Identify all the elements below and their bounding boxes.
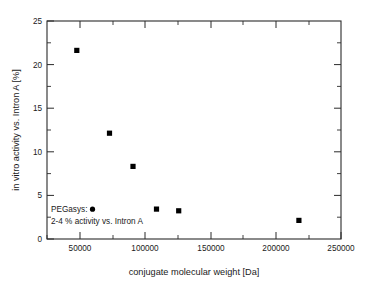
y-tick-label-10: 10 bbox=[33, 148, 43, 157]
x-tick-label-5: 250000 bbox=[327, 244, 355, 253]
y-tick-label-0: 0 bbox=[37, 235, 42, 244]
data-series bbox=[74, 48, 301, 223]
y-tick-label-20: 20 bbox=[33, 61, 43, 70]
x-axis-major-ticks bbox=[80, 232, 341, 239]
scatter-chart-figure: 50000 100000 150000 200000 250000 0 5 10… bbox=[0, 0, 376, 288]
y-axis-right-ticks bbox=[334, 43, 341, 217]
data-point bbox=[130, 164, 135, 169]
data-point bbox=[296, 218, 301, 223]
y-tick-label-5: 5 bbox=[37, 191, 42, 200]
y-axis-tick-labels: 0 5 10 15 20 25 bbox=[33, 17, 43, 244]
data-point bbox=[74, 48, 79, 53]
x-tick-label-1: 50000 bbox=[69, 244, 92, 253]
chart-canvas: 50000 100000 150000 200000 250000 0 5 10… bbox=[0, 0, 376, 288]
x-axis-title: conjugate molecular weight [Da] bbox=[129, 267, 260, 277]
data-point bbox=[154, 207, 159, 212]
data-point bbox=[176, 208, 181, 213]
x-axis-top-ticks bbox=[80, 21, 309, 28]
y-tick-label-25: 25 bbox=[33, 17, 43, 26]
y-axis-minor-ticks bbox=[47, 43, 51, 217]
y-axis-title: in vitro activity vs. Intron A [%] bbox=[11, 69, 21, 191]
x-tick-label-3: 150000 bbox=[197, 244, 225, 253]
x-tick-label-2: 100000 bbox=[131, 244, 159, 253]
x-axis-minor-ticks bbox=[47, 235, 309, 239]
annotation-line-1: PEGasys: bbox=[51, 205, 87, 214]
y-tick-label-15: 15 bbox=[33, 104, 43, 113]
data-point bbox=[107, 131, 112, 136]
plot-frame bbox=[47, 21, 341, 239]
annotation-line-2: 2-4 % activity vs. Intron A bbox=[51, 217, 143, 226]
x-axis-tick-labels: 50000 100000 150000 200000 250000 bbox=[69, 244, 355, 253]
x-tick-label-4: 200000 bbox=[262, 244, 290, 253]
pegasys-circle-marker bbox=[90, 207, 95, 212]
annotation-block: PEGasys: 2-4 % activity vs. Intron A bbox=[51, 205, 143, 226]
